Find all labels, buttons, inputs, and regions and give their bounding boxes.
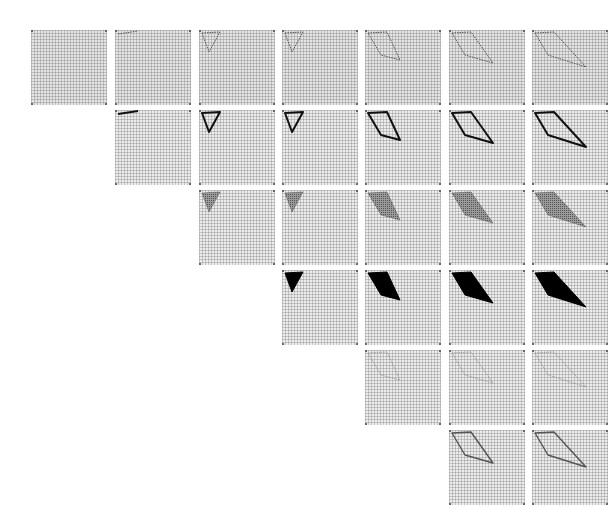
polygon-shape — [199, 30, 275, 105]
panel-r2-c4 — [282, 110, 358, 185]
polygon-shape — [365, 110, 441, 185]
panel-r3-c5 — [365, 190, 441, 265]
polygon-shape — [449, 430, 525, 505]
corner-mark — [31, 30, 33, 32]
polygon-shape — [449, 110, 525, 185]
panel-r6-c7 — [532, 430, 608, 505]
panel-r2-c6 — [449, 110, 525, 185]
panel-r1-c3 — [199, 30, 275, 105]
polygon-shape — [532, 30, 608, 105]
polygon-shape — [199, 110, 275, 185]
polygon-shape — [532, 190, 608, 265]
panel-r5-c5 — [365, 350, 441, 425]
polygon-shape — [532, 430, 608, 505]
polygon-shape — [365, 30, 441, 105]
panel-r1-c7 — [532, 30, 608, 105]
polygon-shape — [449, 30, 525, 105]
polygon-shape — [449, 350, 525, 425]
panel-r1-c2 — [115, 30, 191, 105]
panel-r4-c4 — [282, 270, 358, 345]
polygon-shape — [532, 270, 608, 345]
panel-r1-c6 — [449, 30, 525, 105]
polygon-shape — [199, 190, 275, 265]
polygon-shape — [449, 190, 525, 265]
line-shape — [115, 30, 191, 105]
panel-r5-c6 — [449, 350, 525, 425]
panel-r6-c6 — [449, 430, 525, 505]
panel-r2-c2 — [115, 110, 191, 185]
polygon-shape — [365, 270, 441, 345]
polygon-shape — [365, 350, 441, 425]
polygon-shape — [365, 190, 441, 265]
panel-r3-c4 — [282, 190, 358, 265]
polygon-shape — [282, 110, 358, 185]
panel-r5-c7 — [532, 350, 608, 425]
polygon-shape — [532, 110, 608, 185]
panel-r4-c5 — [365, 270, 441, 345]
panel-r3-c6 — [449, 190, 525, 265]
polygon-shape — [282, 270, 358, 345]
panel-r4-c7 — [532, 270, 608, 345]
panel-r4-c6 — [449, 270, 525, 345]
panel-r2-c3 — [199, 110, 275, 185]
line-shape — [115, 110, 191, 185]
polygon-shape — [449, 270, 525, 345]
panel-r1-c1 — [31, 30, 107, 105]
polygon-shape — [282, 30, 358, 105]
panel-r3-c3 — [199, 190, 275, 265]
panel-r1-c4 — [282, 30, 358, 105]
panel-r1-c5 — [365, 30, 441, 105]
panel-r3-c7 — [532, 190, 608, 265]
polygon-shape — [532, 350, 608, 425]
panel-r2-c7 — [532, 110, 608, 185]
corner-mark — [31, 103, 33, 105]
panel-r2-c5 — [365, 110, 441, 185]
polygon-shape — [282, 190, 358, 265]
corner-mark — [105, 103, 107, 105]
corner-mark — [105, 30, 107, 32]
